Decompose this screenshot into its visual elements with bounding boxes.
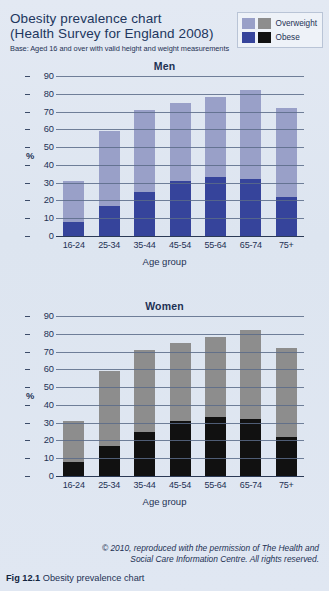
chart-men-plot (56, 76, 304, 236)
x-axis-label: 65-74 (240, 240, 262, 250)
chart-men: Men 0102030405060708090 16-2425-3435-444… (0, 60, 329, 285)
bar-segment-overweight (99, 131, 120, 206)
y-axis-tick (25, 476, 30, 477)
bar-segment-overweight (170, 103, 191, 181)
y-axis-tick (25, 440, 30, 441)
legend-label: Overweight (276, 19, 317, 28)
y-axis-tick (25, 387, 30, 388)
gridline (56, 352, 304, 353)
y-axis-tick (25, 147, 30, 148)
chart-legend: OverweightObese (237, 12, 323, 48)
bar-segment-obese (63, 462, 84, 476)
bar-segment-obese (240, 419, 261, 476)
gridline (56, 165, 304, 166)
gridline (56, 76, 304, 77)
chart-men-x-axis: 16-2425-3435-4445-5455-6465-7475+ (56, 240, 304, 254)
bar-segment-overweight (134, 110, 155, 192)
chart-header: Obesity prevalence chart (Health Survey … (10, 12, 235, 53)
bar-segment-obese (205, 417, 226, 476)
legend-swatch-men (242, 32, 255, 43)
gridline (56, 369, 304, 370)
x-axis-label: 25-34 (98, 480, 120, 490)
legend-swatch-men (242, 18, 255, 29)
x-axis-label: 25-34 (98, 240, 120, 250)
bar-segment-obese (205, 177, 226, 236)
bar-segment-obese (63, 222, 84, 236)
gridline (56, 405, 304, 406)
bar-segment-obese (240, 179, 261, 236)
gridline (56, 236, 304, 237)
page-title-line2: (Health Survey for England 2008) (10, 27, 235, 42)
y-axis-title: % (26, 151, 34, 161)
gridline (56, 316, 304, 317)
y-axis-tick (25, 112, 30, 113)
bar-stack (276, 348, 297, 476)
gridline (56, 458, 304, 459)
bar-segment-overweight (170, 343, 191, 421)
bar-segment-obese (276, 197, 297, 236)
x-axis-label: 16-24 (63, 240, 85, 250)
chart-women-bars (56, 316, 304, 476)
gridline (56, 387, 304, 388)
bar-stack (170, 343, 191, 476)
y-axis-tick (25, 165, 30, 166)
base-note: Base: Aged 16 and over with valid height… (10, 44, 235, 53)
bar-stack (63, 181, 84, 236)
bar-segment-obese (99, 206, 120, 236)
legend-label: Obese (276, 33, 300, 42)
bar-stack (205, 97, 226, 236)
y-axis-tick (25, 369, 30, 370)
x-axis-label: 45-54 (169, 480, 191, 490)
y-axis-tick (25, 76, 30, 77)
x-axis-label: 75+ (279, 480, 294, 490)
bar-segment-obese (134, 192, 155, 236)
bar-segment-obese (99, 446, 120, 476)
chart-women: Women 0102030405060708090 16-2425-3435-4… (0, 300, 329, 525)
chart-women-x-axis: 16-2425-3435-4445-5455-6465-7475+ (56, 480, 304, 494)
bar-stack (205, 337, 226, 476)
chart-women-x-axis-title: Age group (0, 496, 329, 507)
x-axis-label: 16-24 (63, 480, 85, 490)
legend-swatch-women (258, 18, 271, 29)
legend-row: Obese (242, 30, 317, 44)
gridline (56, 218, 304, 219)
legend-swatch-women (258, 32, 271, 43)
bar-segment-obese (276, 437, 297, 476)
bar-stack (63, 421, 84, 476)
chart-men-x-axis-title: Age group (0, 256, 329, 267)
chart-men-bars (56, 76, 304, 236)
x-axis-label: 35-44 (134, 240, 156, 250)
figure-page: Obesity prevalence chart (Health Survey … (0, 0, 329, 591)
gridline (56, 200, 304, 201)
figure-caption-number: Fig 12.1 (6, 573, 40, 583)
bar-stack (276, 108, 297, 236)
gridline (56, 94, 304, 95)
x-axis-label: 75+ (279, 240, 294, 250)
chart-women-plot (56, 316, 304, 476)
figure-caption: Fig 12.1 Obesity prevalence chart (6, 573, 144, 583)
legend-row: Overweight (242, 16, 317, 30)
bar-segment-obese (134, 432, 155, 476)
gridline (56, 183, 304, 184)
y-axis-tick (25, 352, 30, 353)
page-title-line1: Obesity prevalence chart (10, 12, 235, 27)
y-axis-tick (25, 94, 30, 95)
bar-stack (170, 103, 191, 236)
y-axis-tick (25, 236, 30, 237)
copyright-credit: © 2010, reproduced with the permission o… (22, 543, 319, 565)
credit-line2: Social Care Information Centre. All righ… (22, 554, 319, 565)
y-axis-tick (25, 129, 30, 130)
y-axis-tick (25, 200, 30, 201)
bar-segment-overweight (99, 371, 120, 446)
gridline (56, 129, 304, 130)
x-axis-label: 55-64 (204, 240, 226, 250)
bar-segment-overweight (134, 350, 155, 432)
y-axis-tick (25, 316, 30, 317)
gridline (56, 476, 304, 477)
gridline (56, 147, 304, 148)
y-axis-tick (25, 405, 30, 406)
y-axis-tick (25, 423, 30, 424)
gridline (56, 423, 304, 424)
x-axis-label: 45-54 (169, 240, 191, 250)
figure-caption-text: Obesity prevalence chart (43, 573, 145, 583)
